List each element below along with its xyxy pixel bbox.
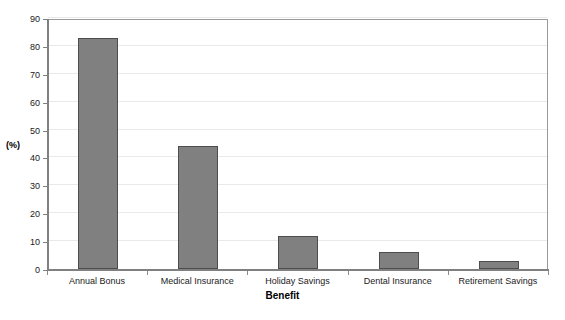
bar[interactable] xyxy=(278,236,318,269)
bars-layer xyxy=(48,20,547,269)
y-tick-label: 80 xyxy=(0,42,40,52)
x-tick-mark xyxy=(47,271,48,275)
bar[interactable] xyxy=(479,261,519,269)
bar-slot xyxy=(449,20,549,269)
x-tick-label: Retirement Savings xyxy=(438,276,558,286)
gridline xyxy=(48,17,547,18)
y-axis-title: (%) xyxy=(6,140,20,150)
x-tick-mark xyxy=(348,271,349,275)
y-tick-mark xyxy=(43,19,47,20)
bar-slot xyxy=(48,20,148,269)
bar-slot xyxy=(349,20,449,269)
y-tick-mark xyxy=(43,186,47,187)
y-tick-label: 40 xyxy=(0,153,40,163)
bar[interactable] xyxy=(78,38,118,269)
bar-chart: 0102030405060708090 Annual BonusMedical … xyxy=(0,0,565,320)
x-tick-mark xyxy=(548,271,549,275)
x-tick-mark xyxy=(247,271,248,275)
y-tick-mark xyxy=(43,158,47,159)
bar[interactable] xyxy=(379,252,419,269)
bar-slot xyxy=(248,20,348,269)
y-tick-label: 90 xyxy=(0,14,40,24)
y-tick-mark xyxy=(43,75,47,76)
y-tick-label: 50 xyxy=(0,126,40,136)
x-tick-mark xyxy=(147,271,148,275)
y-tick-label: 20 xyxy=(0,209,40,219)
x-axis-line xyxy=(47,269,549,271)
y-tick-label: 0 xyxy=(0,265,40,275)
y-tick-mark xyxy=(43,214,47,215)
y-tick-label: 10 xyxy=(0,237,40,247)
y-tick-label: 60 xyxy=(0,98,40,108)
y-tick-mark xyxy=(43,103,47,104)
plot-area xyxy=(47,19,548,270)
y-axis-line xyxy=(47,19,49,271)
bar-slot xyxy=(148,20,248,269)
bar[interactable] xyxy=(178,146,218,269)
x-tick-mark xyxy=(448,271,449,275)
y-tick-mark xyxy=(43,131,47,132)
x-axis-title: Benefit xyxy=(0,290,565,301)
y-tick-mark xyxy=(43,242,47,243)
y-tick-label: 30 xyxy=(0,181,40,191)
y-tick-label: 70 xyxy=(0,70,40,80)
y-tick-mark xyxy=(43,47,47,48)
